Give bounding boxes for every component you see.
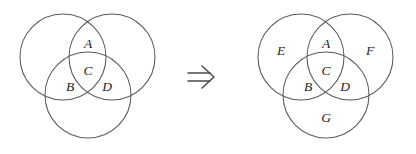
right-region-label-E: E bbox=[276, 43, 286, 58]
left-region-label-A: A bbox=[83, 36, 93, 51]
right-region-label-C: C bbox=[321, 63, 331, 78]
venn-transformation-figure: A C B D E A F C B D G bbox=[0, 0, 416, 154]
left-upper-right-circle bbox=[69, 14, 155, 100]
right-region-label-B: B bbox=[304, 79, 312, 94]
left-venn-group: A C B D bbox=[20, 14, 155, 138]
right-upper-right-circle bbox=[307, 14, 393, 100]
left-region-label-C: C bbox=[83, 63, 93, 78]
right-region-label-F: F bbox=[365, 43, 375, 58]
left-upper-left-circle bbox=[20, 14, 106, 100]
right-upper-left-circle bbox=[258, 14, 344, 100]
implies-arrow bbox=[188, 66, 214, 88]
left-region-label-B: B bbox=[66, 79, 74, 94]
left-region-label-D: D bbox=[101, 79, 112, 94]
right-venn-group: E A F C B D G bbox=[258, 14, 393, 138]
venn-diagram-canvas: A C B D E A F C B D G bbox=[0, 0, 416, 154]
right-region-label-D: D bbox=[339, 79, 350, 94]
right-region-label-G: G bbox=[321, 110, 331, 125]
right-region-label-A: A bbox=[321, 36, 331, 51]
